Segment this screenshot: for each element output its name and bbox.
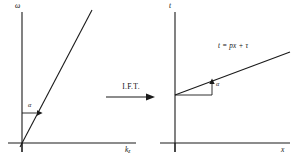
left-alpha-label: α bbox=[28, 101, 31, 108]
kz-axis-label: kz bbox=[125, 146, 130, 154]
moveout-equation: t = px + τ bbox=[218, 42, 248, 50]
dispersion-line bbox=[20, 10, 92, 147]
moveout-line bbox=[175, 52, 290, 95]
kz-subscript: z bbox=[128, 148, 130, 154]
ift-figure: ω kz α I.F.T. t x α t = px + bbox=[0, 0, 295, 165]
x-axis-label: x bbox=[281, 146, 284, 154]
right-alpha-label: α bbox=[216, 80, 219, 87]
omega-axis-label: ω bbox=[15, 2, 20, 10]
t-axis-label: t bbox=[169, 2, 171, 10]
time-offset-panel: t x α t = px + τ bbox=[150, 0, 295, 165]
right-panel-graphics bbox=[150, 0, 295, 165]
alpha-arrowhead-icon bbox=[37, 110, 43, 116]
